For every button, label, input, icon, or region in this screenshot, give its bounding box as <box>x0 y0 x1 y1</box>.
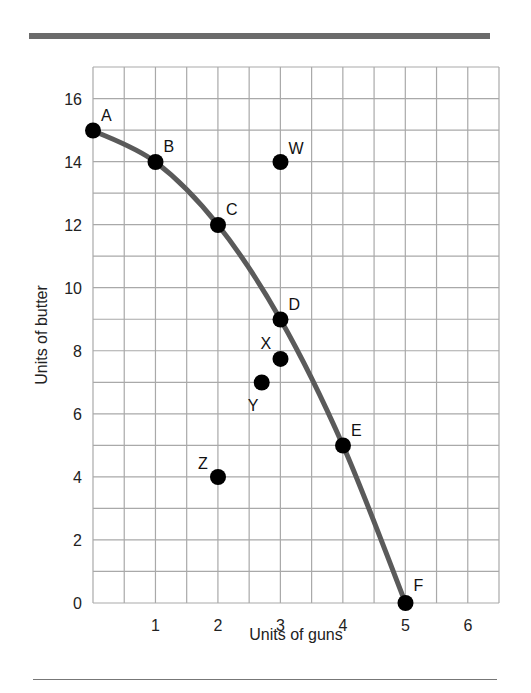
bottom-divider-rule <box>33 679 497 680</box>
point-label-c: C <box>226 201 238 218</box>
point-c <box>210 217 226 233</box>
x-tick-label: 2 <box>214 617 223 634</box>
point-w <box>273 154 289 170</box>
y-tick-label: 10 <box>64 280 82 297</box>
point-e <box>335 438 351 454</box>
x-tick-label: 1 <box>151 617 160 634</box>
x-tick-label: 6 <box>464 617 473 634</box>
x-tick-label: 5 <box>401 617 410 634</box>
y-tick-label: 12 <box>64 217 82 234</box>
point-label-b: B <box>164 138 175 155</box>
point-z <box>210 469 226 485</box>
y-tick-label: 14 <box>64 154 82 171</box>
y-tick-label: 4 <box>73 469 82 486</box>
y-tick-label: 2 <box>73 532 82 549</box>
point-a <box>85 123 101 139</box>
point-x <box>273 351 289 367</box>
point-d <box>273 312 289 328</box>
point-label-y: Y <box>248 397 259 414</box>
x-axis-title: Units of guns <box>249 626 342 643</box>
point-label-e: E <box>351 422 362 439</box>
y-tick-label: 0 <box>73 595 82 612</box>
point-label-x: X <box>261 335 272 352</box>
point-label-w: W <box>289 140 305 157</box>
y-tick-label: 16 <box>64 91 82 108</box>
point-label-f: F <box>414 577 424 594</box>
y-tick-label: 8 <box>73 343 82 360</box>
axis-ticks: 1234560246810121416 <box>64 91 472 634</box>
point-b <box>148 154 164 170</box>
data-points: ABCDEFWXYZ <box>85 107 424 612</box>
point-y <box>254 375 270 391</box>
point-f <box>398 595 414 611</box>
ppf-chart: 1234560246810121416 ABCDEFWXYZ Units of … <box>0 0 531 693</box>
point-label-a: A <box>101 107 112 124</box>
y-tick-label: 6 <box>73 406 82 423</box>
point-label-d: D <box>289 296 301 313</box>
point-label-z: Z <box>198 455 208 472</box>
y-axis-title: Units of butter <box>33 285 50 385</box>
